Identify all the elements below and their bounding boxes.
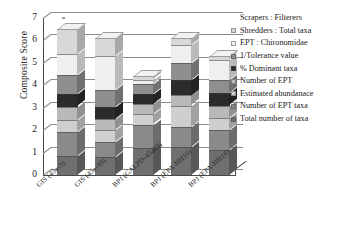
bar-column[interactable] bbox=[95, 69, 116, 244]
legend-item[interactable]: Shredders : Total taxa bbox=[231, 25, 343, 38]
legend-item[interactable]: Number of EPT taxa bbox=[231, 100, 343, 113]
gridline-depth-connector bbox=[43, 12, 52, 19]
y-axis-tick-group: 76543210 bbox=[22, 18, 40, 174]
bar-segment[interactable] bbox=[95, 119, 116, 130]
bar-segment[interactable] bbox=[95, 142, 116, 157]
legend-swatch bbox=[231, 66, 236, 71]
bar-segment[interactable] bbox=[171, 80, 192, 96]
bar-segment[interactable] bbox=[57, 94, 78, 106]
bar-segment[interactable] bbox=[171, 38, 192, 45]
bar-segment[interactable] bbox=[171, 63, 192, 80]
bar-segment[interactable] bbox=[95, 38, 116, 56]
bar-segment[interactable] bbox=[57, 29, 78, 54]
legend-item-label: Estimated abundanace bbox=[240, 90, 313, 98]
bar-segment[interactable] bbox=[171, 106, 192, 127]
legend-swatch bbox=[231, 16, 236, 21]
legend-item-label: Total number of taxa bbox=[240, 115, 308, 123]
legend-item-label: 1/Tolerance value bbox=[240, 52, 298, 60]
bar-segment[interactable] bbox=[133, 84, 154, 94]
bar-segment[interactable] bbox=[209, 93, 230, 105]
bar-segment[interactable] bbox=[57, 132, 78, 156]
bar-stack bbox=[95, 38, 116, 175]
chart-container: Composite Score 76543210 GIS (45a-3)GIS … bbox=[0, 0, 343, 244]
bar-segment[interactable] bbox=[209, 130, 230, 150]
gridline bbox=[51, 12, 243, 13]
y-axis-tick-label: 2 bbox=[19, 125, 37, 135]
y-axis-tick-label: 4 bbox=[19, 81, 37, 91]
bar-segment[interactable] bbox=[95, 130, 116, 142]
legend-swatch bbox=[231, 91, 236, 96]
legend-item[interactable]: % Dominant taxa bbox=[231, 62, 343, 75]
legend-item[interactable]: Scrapers : Filterers bbox=[231, 12, 343, 25]
bar-segment[interactable] bbox=[95, 90, 116, 107]
bar-stack bbox=[57, 29, 78, 175]
legend-swatch bbox=[231, 79, 236, 84]
bar-segment[interactable] bbox=[57, 75, 78, 94]
bar-segment[interactable] bbox=[171, 95, 192, 105]
y-axis-tick-label: 5 bbox=[19, 58, 37, 68]
bar-column[interactable] bbox=[57, 69, 78, 244]
bar-segment[interactable] bbox=[133, 94, 154, 104]
bar-segment[interactable] bbox=[209, 80, 230, 93]
chart-legend: Scrapers : FilterersShredders : Total ta… bbox=[231, 12, 343, 125]
bar-segment[interactable] bbox=[95, 56, 116, 90]
legend-item[interactable]: Number of EPT bbox=[231, 75, 343, 88]
legend-item[interactable]: 1/Tolerance value bbox=[231, 50, 343, 63]
bar-segment[interactable] bbox=[171, 127, 192, 147]
y-axis-tick-label: 1 bbox=[19, 148, 37, 158]
bar-segment[interactable] bbox=[209, 106, 230, 118]
legend-item-label: Scrapers : Filterers bbox=[240, 14, 302, 22]
bar-segment[interactable] bbox=[133, 125, 154, 149]
legend-item[interactable]: EPT : Chironomidae bbox=[231, 37, 343, 50]
legend-item[interactable]: Estimated abundanace bbox=[231, 88, 343, 101]
bar-segment[interactable] bbox=[95, 107, 116, 119]
bar-segment[interactable] bbox=[209, 118, 230, 130]
legend-swatch bbox=[231, 54, 236, 59]
y-axis-tick-mark bbox=[62, 18, 65, 19]
legend-swatch bbox=[231, 104, 236, 109]
bar-segment[interactable] bbox=[57, 107, 78, 120]
y-axis-tick-label: 6 bbox=[19, 36, 37, 46]
y-axis-tick-label: 0 bbox=[19, 170, 37, 180]
legend-item-label: Number of EPT bbox=[240, 77, 292, 85]
bar-segment[interactable] bbox=[57, 120, 78, 132]
bar-segment[interactable] bbox=[57, 54, 78, 75]
bar-segment-side bbox=[191, 142, 199, 175]
bar-segment[interactable] bbox=[209, 60, 230, 80]
legend-swatch bbox=[231, 117, 236, 122]
y-axis-tick-label: 3 bbox=[19, 103, 37, 113]
bar-segment[interactable] bbox=[133, 114, 154, 124]
bar-segment[interactable] bbox=[171, 45, 192, 63]
legend-item-label: % Dominant taxa bbox=[240, 65, 297, 73]
legend-item-label: Shredders : Total taxa bbox=[240, 27, 311, 35]
bar-segment-side bbox=[77, 151, 85, 175]
legend-item[interactable]: Total number of taxa bbox=[231, 113, 343, 126]
legend-swatch bbox=[231, 28, 236, 33]
bar-segment[interactable] bbox=[133, 104, 154, 114]
legend-swatch bbox=[231, 41, 236, 46]
legend-item-label: EPT : Chironomidae bbox=[240, 39, 308, 47]
y-axis-tick-label: 7 bbox=[19, 13, 37, 23]
legend-item-label: Number of EPT taxa bbox=[240, 102, 308, 110]
